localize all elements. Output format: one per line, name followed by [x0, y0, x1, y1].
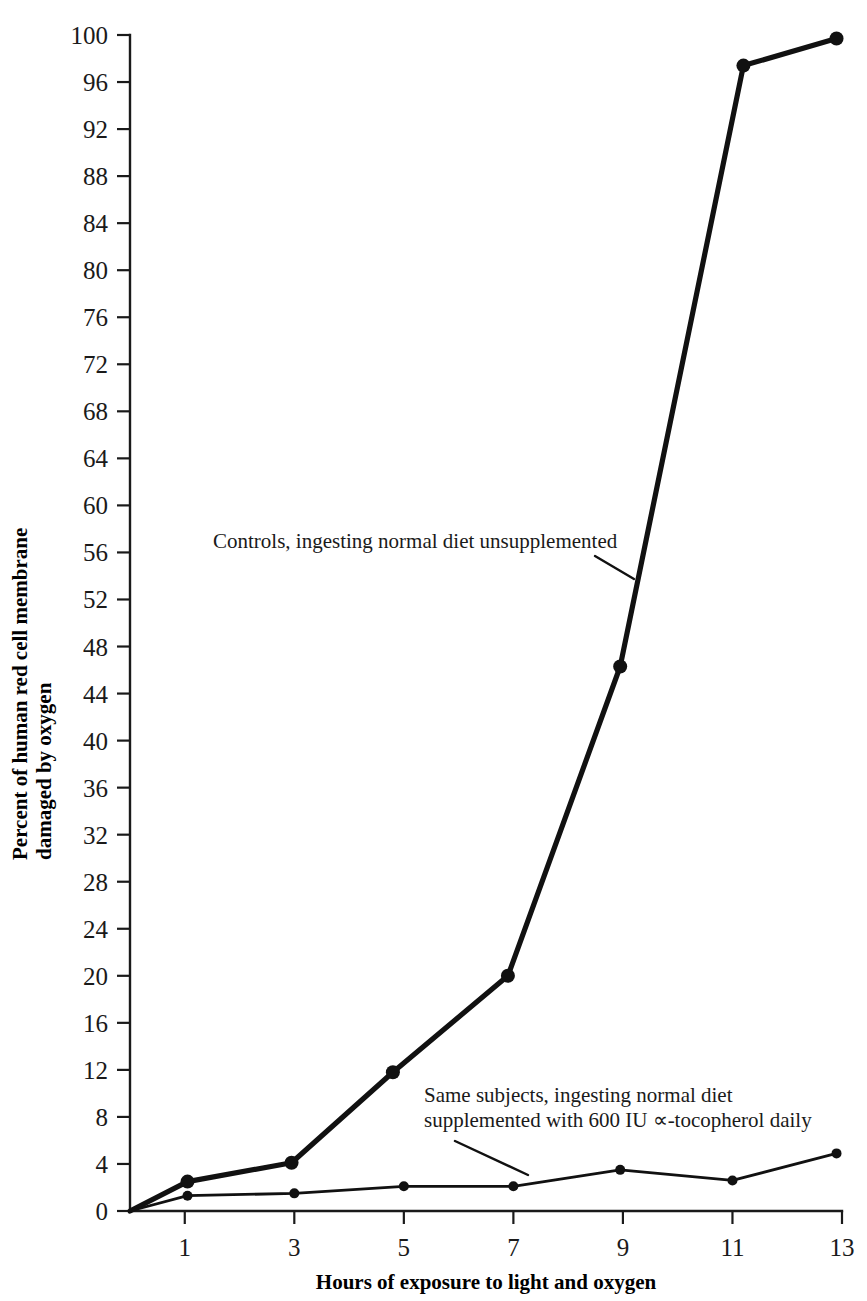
annotation-controls-text: Controls, ingesting normal diet unsupple…: [213, 529, 618, 553]
y-tick-label: 16: [83, 1010, 108, 1037]
y-tick-label: 100: [71, 22, 109, 49]
annotation-supplemented-line1: Same subjects, ingesting normal diet: [424, 1083, 733, 1107]
x-tick-label: 13: [830, 1234, 855, 1261]
series-markers-controls: [181, 32, 844, 1189]
leader-line-supplemented: [455, 1141, 528, 1175]
y-tick-label: 56: [83, 539, 108, 566]
y-tick-label: 48: [83, 634, 108, 661]
y-tick-label: 84: [83, 210, 109, 237]
y-tick-label: 12: [83, 1057, 108, 1084]
data-point: [285, 1156, 299, 1170]
chart-container: 0481216202428323640444852566064687276808…: [0, 0, 867, 1301]
y-axis-title-line2: damaged by oxygen: [32, 682, 56, 860]
data-point: [727, 1175, 737, 1185]
x-tick-label: 1: [179, 1234, 192, 1261]
annotation-controls: Controls, ingesting normal diet unsupple…: [213, 529, 634, 579]
y-tick-label: 24: [83, 916, 109, 943]
y-tick-label: 52: [83, 586, 108, 613]
y-tick-label: 44: [83, 681, 109, 708]
x-tick-label: 11: [720, 1234, 744, 1261]
x-axis: 135791113: [130, 1211, 855, 1261]
y-axis: 0481216202428323640444852566064687276808…: [71, 22, 131, 1225]
y-tick-label: 0: [96, 1198, 109, 1225]
y-tick-label: 96: [83, 69, 108, 96]
data-point: [181, 1175, 195, 1189]
y-tick-label: 28: [83, 869, 108, 896]
x-tick-label-group: 135791113: [179, 1234, 855, 1261]
data-point: [508, 1181, 518, 1191]
data-point: [183, 1191, 193, 1201]
annotation-supplemented: Same subjects, ingesting normal diet sup…: [424, 1083, 812, 1175]
data-point: [736, 59, 750, 73]
line-chart: 0481216202428323640444852566064687276808…: [0, 0, 867, 1301]
y-tick-label: 72: [83, 351, 108, 378]
data-point: [832, 1148, 842, 1158]
y-tick-label: 80: [83, 257, 108, 284]
data-point: [613, 660, 627, 674]
series-group: [130, 32, 844, 1211]
data-point: [830, 32, 844, 46]
x-tick-label: 7: [507, 1234, 520, 1261]
y-tick-label: 76: [83, 304, 108, 331]
x-tick-label: 9: [617, 1234, 630, 1261]
data-point: [615, 1165, 625, 1175]
x-tick-label: 3: [288, 1234, 301, 1261]
y-tick-label: 40: [83, 728, 108, 755]
x-axis-title: Hours of exposure to light and oxygen: [316, 1270, 657, 1294]
data-point: [399, 1181, 409, 1191]
y-tick-label: 64: [83, 445, 109, 472]
y-tick-label: 20: [83, 963, 108, 990]
y-tick-label: 92: [83, 116, 108, 143]
annotation-supplemented-line2: supplemented with 600 IU ∝-tocopherol da…: [424, 1108, 812, 1132]
y-axis-title: Percent of human red cell membrane damag…: [8, 528, 56, 860]
x-tick-label: 5: [398, 1234, 411, 1261]
y-tick-label: 8: [96, 1104, 109, 1131]
y-tick-label: 60: [83, 492, 108, 519]
data-point: [386, 1065, 400, 1079]
x-tick-group: [185, 1211, 842, 1224]
y-tick-label: 68: [83, 398, 108, 425]
y-tick-label: 36: [83, 775, 108, 802]
y-tick-group: [117, 35, 130, 1211]
y-tick-label: 4: [96, 1151, 109, 1178]
y-tick-label-group: 0481216202428323640444852566064687276808…: [71, 22, 109, 1225]
y-tick-label: 88: [83, 163, 108, 190]
y-axis-title-line1: Percent of human red cell membrane: [8, 528, 32, 860]
series-line-controls: [130, 39, 837, 1211]
y-tick-label: 32: [83, 822, 108, 849]
data-point: [501, 969, 515, 983]
data-point: [289, 1188, 299, 1198]
leader-line-controls: [595, 556, 634, 579]
